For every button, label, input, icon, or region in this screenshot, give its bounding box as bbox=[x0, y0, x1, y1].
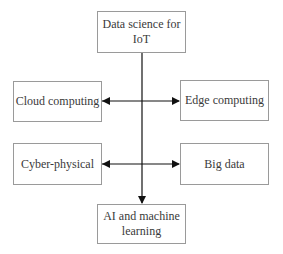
node-edge-computing: Edge computing bbox=[180, 80, 269, 121]
node-cloud-computing: Cloud computing bbox=[13, 81, 102, 122]
node-label-line1: Data science for bbox=[103, 17, 181, 31]
node-label-line2: IoT bbox=[133, 32, 150, 46]
arrowhead-left-cloud bbox=[102, 97, 110, 105]
node-label: Cyber-physical bbox=[21, 157, 94, 172]
node-data-science-iot: Data science forIoT bbox=[97, 11, 186, 53]
node-cyber-physical: Cyber-physical bbox=[13, 143, 102, 185]
node-label-line2: learning bbox=[122, 224, 161, 238]
node-label-line1: AI and machine bbox=[103, 209, 180, 223]
node-ai-ml: AI and machinelearning bbox=[97, 204, 186, 244]
arrowhead-left-cyber bbox=[102, 160, 110, 168]
node-label: Cloud computing bbox=[16, 94, 100, 109]
node-big-data: Big data bbox=[180, 143, 269, 185]
node-label: Edge computing bbox=[185, 93, 264, 108]
node-label: Big data bbox=[204, 157, 244, 172]
